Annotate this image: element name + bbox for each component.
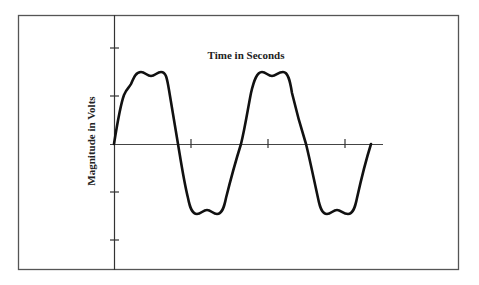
waveform-line	[114, 72, 371, 214]
waveform-chart: Time in Seconds Magnitude in Volts	[0, 0, 479, 285]
chart-title: Time in Seconds	[208, 49, 286, 61]
x-axis-ticks	[191, 139, 345, 148]
y-axis-label: Magnitude in Volts	[85, 96, 97, 186]
